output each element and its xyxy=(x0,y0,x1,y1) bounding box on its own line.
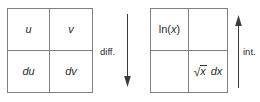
table-cell-du: du xyxy=(8,51,50,93)
cell-label-lnx: ln(x) xyxy=(159,24,180,35)
table-cell-empty-top-right xyxy=(189,9,227,51)
worked-example-table: ln(x) √xdx xyxy=(150,8,228,93)
cell-label-u: u xyxy=(25,24,31,35)
table-cell-v: v xyxy=(50,9,92,51)
table-cell-sqrtx-dx: √xdx xyxy=(189,51,227,93)
generic-integration-by-parts-table: u v du dv xyxy=(7,8,93,93)
table-cell-dv: dv xyxy=(50,51,92,93)
arrow-label-int: int. xyxy=(243,47,256,57)
arrow-up-icon xyxy=(234,14,243,88)
cell-label-dv: dv xyxy=(65,66,77,77)
ln-suffix: ) xyxy=(177,23,181,35)
table-cell-lnx: ln(x) xyxy=(151,9,189,51)
arrow-down-icon xyxy=(123,14,132,88)
radicand-x: x xyxy=(200,65,207,77)
ln-prefix: ln( xyxy=(159,23,171,35)
cell-label-v: v xyxy=(68,24,74,35)
table-cell-u: u xyxy=(8,9,50,51)
diagram-canvas: u v du dv diff. ln(x) √xdx xyxy=(0,0,260,102)
cell-label-sqrtx-dx: √xdx xyxy=(194,65,223,77)
arrow-label-diff: diff. xyxy=(100,47,115,57)
table-cell-empty-bottom-left xyxy=(151,51,189,93)
radical-icon: √ xyxy=(194,66,201,78)
cell-label-du: du xyxy=(22,66,34,77)
differential-dx: dx xyxy=(211,66,223,77)
